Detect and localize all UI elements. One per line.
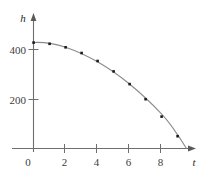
data-point xyxy=(96,60,99,63)
y-tick-label-200: 200 xyxy=(10,94,27,106)
x-tick-label-6: 6 xyxy=(126,156,132,168)
data-point xyxy=(144,98,147,101)
x-axis-label: t xyxy=(192,156,196,168)
plot-area: 400 200 0 2 4 6 8 h t xyxy=(0,0,207,175)
x-tick-label-4: 4 xyxy=(94,156,100,168)
data-point xyxy=(160,115,163,118)
data-point xyxy=(80,52,83,55)
y-axis-arrow-icon xyxy=(31,13,37,21)
data-point xyxy=(176,135,179,138)
data-point xyxy=(48,43,51,46)
data-point xyxy=(128,83,131,86)
origin-label: 0 xyxy=(25,156,31,168)
height-curve xyxy=(34,42,187,148)
data-point xyxy=(32,41,35,44)
y-tick-label-400: 400 xyxy=(10,44,27,56)
x-tick-label-8: 8 xyxy=(158,156,164,168)
x-tick-label-2: 2 xyxy=(62,156,68,168)
data-point xyxy=(64,46,67,49)
height-vs-time-chart: 400 200 0 2 4 6 8 h t xyxy=(0,0,207,175)
x-axis-arrow-icon xyxy=(188,146,196,152)
y-axis-label: h xyxy=(20,12,26,24)
data-point xyxy=(112,70,115,73)
